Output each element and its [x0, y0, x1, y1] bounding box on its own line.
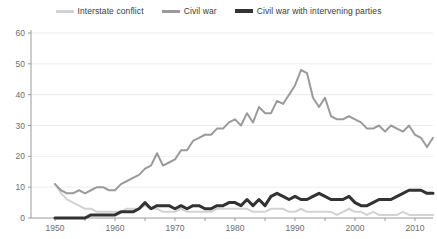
line-chart: Interstate conflict Civil war Civil war …	[0, 0, 437, 239]
x-axis	[31, 218, 433, 221]
legend-swatch-icon	[56, 10, 74, 13]
y-tick-label: 50	[16, 59, 26, 69]
x-tick-label: 1970	[166, 223, 185, 233]
chart-legend: Interstate conflict Civil war Civil war …	[0, 0, 437, 22]
x-tick-label: 1990	[286, 223, 305, 233]
series-line-1	[55, 70, 433, 193]
x-tick-label: 1960	[106, 223, 125, 233]
legend-item-label: Interstate conflict	[78, 6, 144, 16]
x-tick-labels: 1950196019701980199020002010	[46, 223, 425, 233]
legend-item-label: Civil war with intervening parties	[257, 6, 382, 16]
y-tick-labels: 0102030405060	[16, 28, 26, 223]
y-axis	[28, 30, 31, 218]
y-tick-label: 0	[20, 213, 25, 223]
y-tick-label: 60	[16, 28, 26, 38]
y-tick-label: 30	[16, 121, 26, 131]
x-tick-label: 2010	[406, 223, 425, 233]
y-tick-label: 20	[16, 151, 26, 161]
legend-item-civil-war-intervening[interactable]: Civil war with intervening parties	[235, 6, 382, 16]
x-tick-label: 2000	[346, 223, 365, 233]
legend-swatch-icon	[235, 9, 253, 13]
x-tick-label: 1950	[46, 223, 65, 233]
legend-item-interstate-conflict[interactable]: Interstate conflict	[56, 6, 144, 16]
legend-item-civil-war[interactable]: Civil war	[162, 6, 217, 16]
grid-lines	[31, 33, 433, 187]
y-tick-label: 10	[16, 182, 26, 192]
series-lines	[55, 70, 433, 218]
plot-area: 0102030405060 19501960197019801990200020…	[0, 22, 437, 239]
y-tick-label: 40	[16, 90, 26, 100]
x-tick-label: 1980	[226, 223, 245, 233]
legend-item-label: Civil war	[184, 6, 217, 16]
plot-svg: 0102030405060 19501960197019801990200020…	[0, 22, 437, 239]
legend-swatch-icon	[162, 10, 180, 13]
